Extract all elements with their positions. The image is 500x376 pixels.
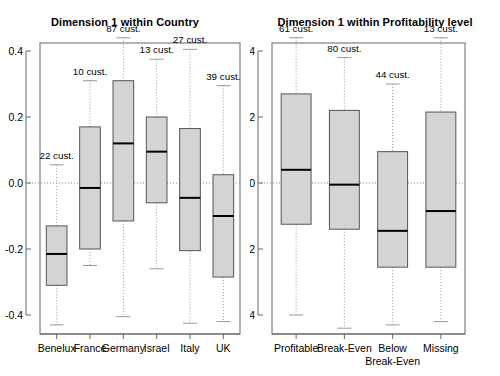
x-axis-tick-label: Profitable: [274, 342, 319, 354]
boxplot-box: 44 cust.: [375, 69, 409, 325]
box-count-annotation: 22 cust.: [40, 150, 74, 161]
box-iqr-rect: [46, 226, 67, 285]
y-axis-tick-label: -0.4: [5, 309, 23, 321]
box-iqr-rect: [378, 152, 408, 268]
box-count-annotation: 39 cust.: [206, 71, 240, 82]
x-axis-tick-label: Germany: [102, 342, 146, 354]
boxplot-box: 27 cust.: [173, 34, 207, 323]
panel-profitability-plot: 0.40.20.0-0.2-0.461 cust.Profitable80 cu…: [250, 0, 500, 376]
box-count-annotation: 61 cust.: [279, 23, 313, 34]
boxplot-box: 80 cust.: [327, 43, 361, 329]
boxplot-box: 39 cust.: [206, 71, 240, 322]
panel-profitability: Dimension 1 within Profitability level 0…: [250, 0, 500, 376]
box-iqr-rect: [426, 112, 456, 267]
x-axis-tick-label: Italy: [180, 342, 200, 354]
y-axis-tick-label: 0.2: [250, 111, 255, 123]
x-axis-tick-label: Below: [378, 342, 407, 354]
boxplot-box: 10 cust.: [73, 66, 107, 266]
y-axis-tick-label: 0.2: [8, 111, 23, 123]
y-axis-tick-label: -0.2: [250, 243, 255, 255]
box-count-annotation: 80 cust.: [327, 43, 361, 54]
box-iqr-rect: [213, 175, 234, 277]
x-axis-tick-label: Break-Even: [317, 342, 372, 354]
plot-frame: [40, 43, 240, 334]
box-count-annotation: 13 cust.: [140, 44, 174, 55]
panel-country-plot: 0.40.20.0-0.2-0.422 cust.Benelux10 cust.…: [0, 0, 250, 376]
box-count-annotation: 10 cust.: [73, 66, 107, 77]
y-axis-tick-label: 0.0: [250, 177, 255, 189]
x-axis-tick-label: UK: [216, 342, 231, 354]
x-axis-tick-label: Break-Even: [365, 355, 420, 367]
boxplot-box: 13 cust.: [424, 23, 458, 322]
x-axis-tick-label: Missing: [423, 342, 459, 354]
box-iqr-rect: [281, 94, 311, 224]
box-iqr-rect: [113, 81, 134, 221]
box-count-annotation: 87 cust.: [106, 23, 140, 34]
boxplot-box: 22 cust.: [40, 150, 74, 325]
panel-country: Dimension 1 within Country 0.40.20.0-0.2…: [0, 0, 250, 376]
box-iqr-rect: [329, 110, 359, 229]
box-iqr-rect: [180, 129, 201, 251]
box-count-annotation: 44 cust.: [375, 69, 409, 80]
y-axis-tick-label: -0.2: [5, 243, 23, 255]
box-count-annotation: 27 cust.: [173, 34, 207, 45]
boxplot-box: 13 cust.: [140, 44, 174, 269]
y-axis-tick-label: 0.4: [8, 45, 23, 57]
y-axis-tick-label: 0.0: [8, 177, 23, 189]
box-iqr-rect: [146, 117, 167, 203]
boxplot-box: 87 cust.: [106, 23, 140, 317]
x-axis-tick-label: Israel: [144, 342, 170, 354]
y-axis-tick-label: -0.4: [250, 309, 255, 321]
y-axis-tick-label: 0.4: [250, 45, 255, 57]
boxplot-box: 61 cust.: [279, 23, 313, 315]
box-count-annotation: 13 cust.: [424, 23, 458, 34]
x-axis-tick-label: Benelux: [38, 342, 77, 354]
boxplot-figure: Dimension 1 within Country 0.40.20.0-0.2…: [0, 0, 500, 376]
